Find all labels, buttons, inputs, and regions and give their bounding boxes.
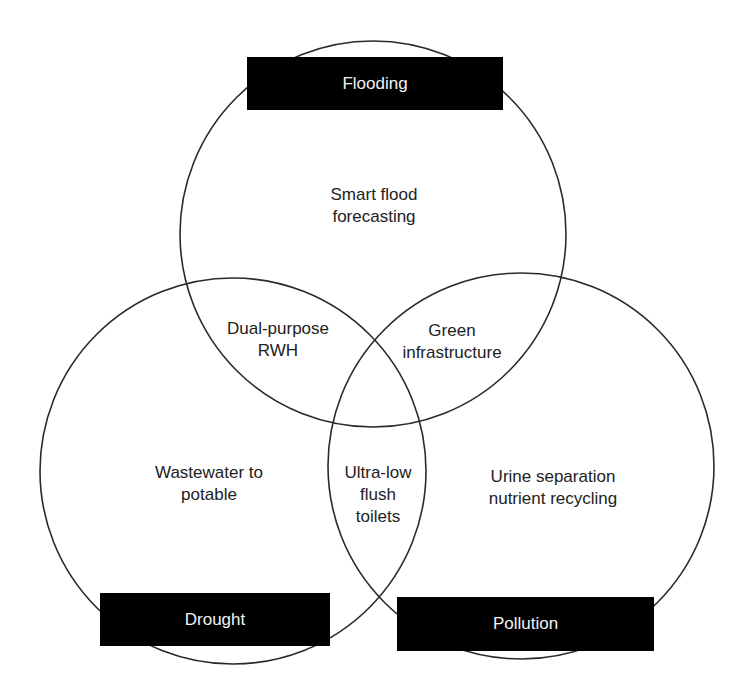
region-line: infrastructure [402,342,501,364]
region-line: forecasting [331,206,418,228]
region-line: nutrient recycling [489,488,618,510]
region-line: flush [344,484,411,506]
flooding-label: Flooding [247,57,503,110]
region-flooding-pollution: Green infrastructure [402,320,501,364]
drought-label-text: Drought [185,610,245,630]
region-line: RWH [227,340,329,362]
region-flooding-only: Smart flood forecasting [331,184,418,228]
region-line: Urine separation [489,466,618,488]
region-line: Dual-purpose [227,318,329,340]
region-drought-pollution: Ultra-low flush toilets [344,462,411,528]
region-line: Ultra-low [344,462,411,484]
drought-label: Drought [100,593,330,646]
region-line: potable [155,484,263,506]
region-drought-only: Wastewater to potable [155,462,263,506]
flooding-label-text: Flooding [342,74,407,94]
region-line: Wastewater to [155,462,263,484]
region-pollution-only: Urine separation nutrient recycling [489,466,618,510]
region-flooding-drought: Dual-purpose RWH [227,318,329,362]
region-line: Green [402,320,501,342]
region-line: toilets [344,506,411,528]
pollution-label: Pollution [397,597,654,651]
region-line: Smart flood [331,184,418,206]
pollution-label-text: Pollution [493,614,558,634]
